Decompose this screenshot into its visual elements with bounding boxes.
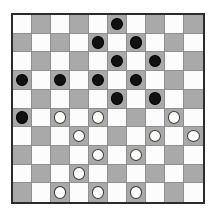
board-square-e1[interactable] [89, 183, 108, 202]
board-square-g1[interactable] [127, 183, 146, 202]
board-square-g9[interactable] [127, 34, 146, 53]
board-square-g4[interactable] [127, 127, 146, 146]
board-square-h3[interactable] [146, 146, 165, 165]
black-piece[interactable] [130, 74, 143, 86]
board-square-e4[interactable] [89, 127, 108, 146]
board-square-f5[interactable] [108, 109, 127, 128]
black-piece[interactable] [111, 92, 124, 104]
board-square-d9[interactable] [70, 34, 89, 53]
board-square-g2[interactable] [127, 165, 146, 184]
board-square-i3[interactable] [165, 146, 184, 165]
board-square-c4[interactable] [51, 127, 70, 146]
board-square-b7[interactable] [32, 71, 51, 90]
board-square-e5[interactable] [89, 109, 108, 128]
board-square-c8[interactable] [51, 52, 70, 71]
white-piece[interactable] [92, 186, 105, 199]
board-square-g8[interactable] [127, 52, 146, 71]
board-square-e7[interactable] [89, 71, 108, 90]
black-piece[interactable] [92, 36, 105, 48]
board-square-j10[interactable] [184, 15, 203, 34]
board-square-g10[interactable] [127, 15, 146, 34]
board-square-i7[interactable] [165, 71, 184, 90]
board-square-e10[interactable] [89, 15, 108, 34]
board-square-b4[interactable] [32, 127, 51, 146]
white-piece[interactable] [73, 130, 86, 142]
board-square-h4[interactable] [146, 127, 165, 146]
black-piece[interactable] [130, 36, 143, 48]
board-square-d2[interactable] [70, 165, 89, 184]
board-square-j8[interactable] [184, 52, 203, 71]
board-square-d10[interactable] [70, 15, 89, 34]
board-square-j6[interactable] [184, 90, 203, 109]
board-square-c6[interactable] [51, 90, 70, 109]
board-square-i1[interactable] [165, 183, 184, 202]
board-square-f7[interactable] [108, 71, 127, 90]
board-square-i10[interactable] [165, 15, 184, 34]
board-square-i4[interactable] [165, 127, 184, 146]
board-square-j4[interactable] [184, 127, 203, 146]
board-square-h5[interactable] [146, 109, 165, 128]
board-square-c1[interactable] [51, 183, 70, 202]
board-square-g6[interactable] [127, 90, 146, 109]
board-square-j2[interactable] [184, 165, 203, 184]
board-square-j9[interactable] [184, 34, 203, 53]
board-square-a2[interactable] [13, 165, 32, 184]
checkers-board[interactable] [11, 13, 205, 204]
board-square-h10[interactable] [146, 15, 165, 34]
board-square-f10[interactable] [108, 15, 127, 34]
board-square-h1[interactable] [146, 183, 165, 202]
board-square-h6[interactable] [146, 90, 165, 109]
board-square-f6[interactable] [108, 90, 127, 109]
board-square-g5[interactable] [127, 109, 146, 128]
board-square-d7[interactable] [70, 71, 89, 90]
black-piece[interactable] [16, 74, 29, 86]
board-square-e2[interactable] [89, 165, 108, 184]
board-square-h2[interactable] [146, 165, 165, 184]
board-square-a10[interactable] [13, 15, 32, 34]
white-piece[interactable] [92, 111, 105, 123]
board-square-b10[interactable] [32, 15, 51, 34]
board-square-g3[interactable] [127, 146, 146, 165]
board-square-h7[interactable] [146, 71, 165, 90]
white-piece[interactable] [149, 130, 162, 142]
board-square-c10[interactable] [51, 15, 70, 34]
white-piece[interactable] [130, 186, 143, 199]
board-square-a8[interactable] [13, 52, 32, 71]
board-square-e8[interactable] [89, 52, 108, 71]
white-piece[interactable] [54, 111, 67, 123]
board-square-e3[interactable] [89, 146, 108, 165]
board-square-i9[interactable] [165, 34, 184, 53]
board-square-d5[interactable] [70, 109, 89, 128]
white-piece[interactable] [130, 149, 143, 161]
board-square-a1[interactable] [13, 183, 32, 202]
board-square-c3[interactable] [51, 146, 70, 165]
white-piece[interactable] [187, 130, 200, 142]
board-square-c7[interactable] [51, 71, 70, 90]
white-piece[interactable] [73, 167, 86, 179]
board-square-d8[interactable] [70, 52, 89, 71]
black-piece[interactable] [16, 111, 29, 123]
board-square-h9[interactable] [146, 34, 165, 53]
board-square-f3[interactable] [108, 146, 127, 165]
board-square-e9[interactable] [89, 34, 108, 53]
board-square-b1[interactable] [32, 183, 51, 202]
black-piece[interactable] [111, 18, 124, 30]
board-square-b6[interactable] [32, 90, 51, 109]
board-square-f8[interactable] [108, 52, 127, 71]
board-square-a7[interactable] [13, 71, 32, 90]
board-square-c5[interactable] [51, 109, 70, 128]
board-square-g7[interactable] [127, 71, 146, 90]
board-square-j3[interactable] [184, 146, 203, 165]
board-square-j5[interactable] [184, 109, 203, 128]
board-square-a5[interactable] [13, 109, 32, 128]
board-square-j7[interactable] [184, 71, 203, 90]
board-square-b5[interactable] [32, 109, 51, 128]
white-piece[interactable] [92, 149, 105, 161]
board-square-h8[interactable] [146, 52, 165, 71]
board-square-a6[interactable] [13, 90, 32, 109]
black-piece[interactable] [149, 55, 162, 67]
board-square-d4[interactable] [70, 127, 89, 146]
board-square-i2[interactable] [165, 165, 184, 184]
board-square-c9[interactable] [51, 34, 70, 53]
board-square-b9[interactable] [32, 34, 51, 53]
